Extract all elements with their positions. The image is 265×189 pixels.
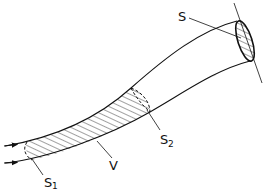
flow-arrow-upper (183, 40, 193, 46)
leader-v (97, 141, 112, 158)
flow-arrow-lower (206, 75, 216, 79)
inflow-arrow-upper (4, 145, 17, 147)
stream-tube-diagram: S S 2 S 1 V (0, 0, 265, 189)
label-s1-subscript: 1 (52, 181, 58, 189)
leader-s1 (32, 159, 43, 175)
section-s-hatch (230, 15, 260, 70)
leader-s (189, 18, 241, 38)
label-s2-subscript: 2 (168, 139, 174, 149)
label-v: V (109, 158, 118, 173)
inflow-arrow-lower (4, 163, 17, 164)
leader-s2 (147, 110, 160, 130)
control-volume-v (26, 88, 150, 160)
label-s: S (178, 9, 186, 24)
